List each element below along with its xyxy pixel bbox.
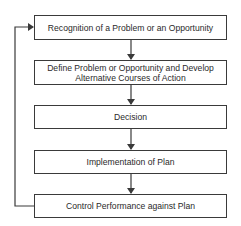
step-recognition: Recognition of a Problem or an Opportuni… — [34, 15, 227, 40]
feedback-loop-arrow — [15, 27, 34, 206]
step-label: Define Problem or Opportunity and Develo… — [35, 63, 226, 83]
step-decision: Decision — [34, 105, 227, 129]
step-define: Define Problem or Opportunity and Develo… — [34, 60, 227, 85]
step-label: Control Performance against Plan — [66, 201, 195, 211]
step-implementation: Implementation of Plan — [34, 150, 227, 174]
step-label: Implementation of Plan — [87, 157, 175, 167]
step-label: Recognition of a Problem or an Opportuni… — [48, 23, 213, 33]
step-control: Control Performance against Plan — [34, 194, 227, 218]
step-label: Decision — [114, 112, 147, 122]
